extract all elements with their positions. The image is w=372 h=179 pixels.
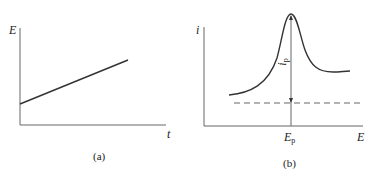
panel-a-y-axis-label: E	[9, 24, 16, 36]
panel-b-arrow-head-up	[289, 15, 293, 20]
diagram-canvas	[0, 0, 372, 179]
panel-b-caption: (b)	[283, 158, 296, 169]
panel-b-y-axis-label: i	[196, 24, 199, 36]
peak-current-subscript: p	[281, 58, 290, 62]
panel-b	[204, 14, 363, 126]
panel-a-x-axis-label: t	[167, 128, 170, 140]
panel-b-peak-current-label: ip	[276, 58, 290, 65]
panel-a-caption: (a)	[93, 151, 105, 162]
peak-potential-subscript: p	[291, 136, 295, 145]
panel-b-peak-potential-label: Ep	[284, 131, 295, 145]
panel-b-x-axis-label: E	[357, 131, 364, 143]
panel-b-arrow-head-down	[289, 98, 293, 103]
panel-a-potential-ramp	[20, 60, 128, 104]
peak-current-symbol: i	[275, 62, 289, 65]
panel-b-peak-curve	[229, 14, 350, 95]
panel-a	[20, 28, 166, 125]
